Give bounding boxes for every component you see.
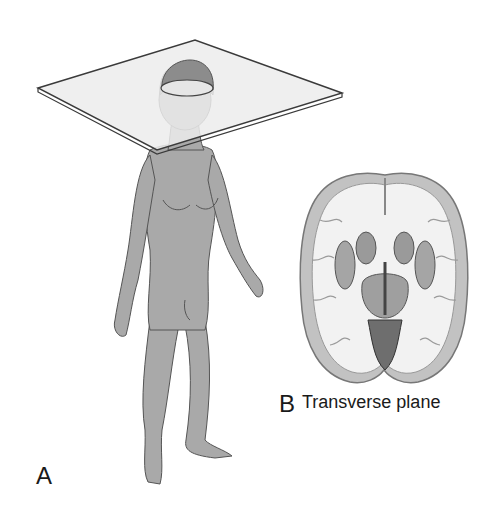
transverse-plane	[38, 40, 342, 154]
brain-cut-surface	[161, 80, 213, 96]
brain-transverse-section	[300, 173, 468, 382]
anatomy-figure	[0, 0, 486, 508]
panel-b-label: B	[279, 390, 295, 418]
panel-a-label: A	[36, 462, 52, 490]
panel-b-caption: Transverse plane	[302, 392, 440, 413]
